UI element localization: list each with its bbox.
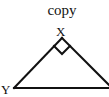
vertex-label-y: Y: [1, 83, 10, 96]
vertex-label-x: X: [56, 25, 65, 38]
right-triangle-figure: [0, 0, 109, 97]
side-x-right: [62, 38, 109, 86]
right-angle-marker: [54, 46, 70, 54]
